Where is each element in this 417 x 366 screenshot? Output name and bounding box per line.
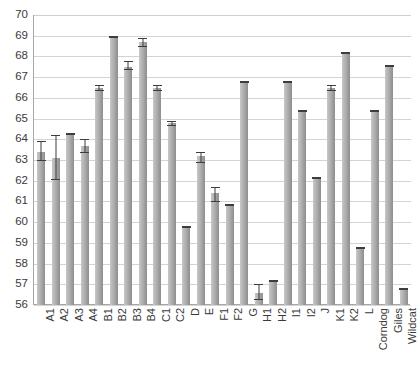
- x-tick-label: J: [320, 308, 331, 314]
- bar[interactable]: [66, 133, 74, 305]
- bar-group[interactable]: [298, 15, 306, 305]
- error-bar-line: [41, 141, 42, 160]
- bar-group[interactable]: [284, 15, 292, 305]
- bar-group[interactable]: [110, 15, 118, 305]
- bar[interactable]: [356, 247, 364, 305]
- bar-group[interactable]: [52, 15, 60, 305]
- bar-group[interactable]: [66, 15, 74, 305]
- error-bar-cap-bottom: [37, 160, 46, 161]
- bar-group[interactable]: [81, 15, 89, 305]
- x-tick-label: L: [364, 308, 375, 314]
- error-bar-cap-top: [109, 36, 118, 38]
- bar-group[interactable]: [37, 15, 45, 305]
- x-tick-label: Corndog: [378, 308, 389, 350]
- x-tick-label: Wildcat: [407, 308, 417, 344]
- bar[interactable]: [298, 110, 306, 305]
- error-bar-cap-bottom: [153, 90, 162, 91]
- bar-group[interactable]: [327, 15, 335, 305]
- bar[interactable]: [52, 158, 60, 305]
- error-bar-line: [215, 187, 216, 202]
- error-bar-cap-top: [283, 81, 292, 83]
- x-tick-label: A1: [45, 308, 56, 321]
- bar-group[interactable]: [371, 15, 379, 305]
- y-tick-label: 64: [0, 133, 28, 144]
- error-bar-cap-bottom: [196, 162, 205, 163]
- error-bar-line: [258, 284, 259, 299]
- bar-group[interactable]: [197, 15, 205, 305]
- bar-group[interactable]: [139, 15, 147, 305]
- bar[interactable]: [37, 152, 45, 305]
- x-tick-label: A4: [88, 308, 99, 321]
- bar-group[interactable]: [269, 15, 277, 305]
- bar-chart: A1A2A3A4B1B2B3B4C1C2DEF1F2GH1H2I1I2JK1K2…: [0, 0, 417, 366]
- bar[interactable]: [81, 146, 89, 306]
- error-bar-cap-top: [298, 110, 307, 112]
- bar[interactable]: [371, 110, 379, 305]
- bar-group[interactable]: [124, 15, 132, 305]
- bar-group[interactable]: [342, 15, 350, 305]
- bar-group[interactable]: [313, 15, 321, 305]
- bar-group[interactable]: [182, 15, 190, 305]
- bar-group[interactable]: [400, 15, 408, 305]
- bar[interactable]: [110, 36, 118, 305]
- bar[interactable]: [168, 123, 176, 305]
- x-axis-tick-labels: A1A2A3A4B1B2B3B4C1C2DEF1F2GH1H2I1I2JK1K2…: [33, 308, 410, 366]
- bar[interactable]: [153, 88, 161, 306]
- bar[interactable]: [400, 288, 408, 305]
- error-bar-cap-top: [225, 204, 234, 206]
- bar[interactable]: [226, 204, 234, 306]
- bar[interactable]: [211, 193, 219, 305]
- bar[interactable]: [182, 226, 190, 305]
- bar[interactable]: [385, 65, 393, 305]
- error-bar-cap-top: [80, 139, 89, 140]
- error-bar-cap-bottom: [327, 90, 336, 91]
- bar-group[interactable]: [240, 15, 248, 305]
- bar-group[interactable]: [356, 15, 364, 305]
- x-tick-label: B2: [117, 308, 128, 321]
- bar[interactable]: [342, 52, 350, 305]
- bar[interactable]: [240, 81, 248, 305]
- x-tick-label: C1: [161, 308, 172, 322]
- y-tick-label: 68: [0, 50, 28, 61]
- bar-group[interactable]: [226, 15, 234, 305]
- bar[interactable]: [327, 88, 335, 306]
- bar[interactable]: [269, 280, 277, 305]
- error-bar-cap-top: [240, 81, 249, 83]
- bar[interactable]: [139, 42, 147, 305]
- error-bar-cap-top: [327, 85, 336, 86]
- x-tick-label: Giles: [393, 308, 404, 333]
- y-tick-label: 58: [0, 258, 28, 269]
- error-bar-cap-top: [124, 61, 133, 62]
- error-bar-line: [142, 38, 143, 46]
- bar[interactable]: [95, 88, 103, 306]
- y-tick-label: 70: [0, 9, 28, 20]
- bar[interactable]: [197, 156, 205, 305]
- x-tick-label: D: [190, 308, 201, 316]
- x-tick-label: E: [204, 308, 215, 315]
- x-tick-label: K2: [349, 308, 360, 321]
- bar[interactable]: [124, 67, 132, 305]
- bar-group[interactable]: [255, 15, 263, 305]
- error-bar-cap-top: [37, 141, 46, 142]
- plot-area: [33, 15, 410, 305]
- error-bar-cap-bottom: [138, 46, 147, 47]
- bar-group[interactable]: [168, 15, 176, 305]
- bar-group[interactable]: [95, 15, 103, 305]
- bar[interactable]: [313, 177, 321, 305]
- error-bar-cap-top: [95, 85, 104, 86]
- bar-group[interactable]: [153, 15, 161, 305]
- x-tick-label: H1: [262, 308, 273, 322]
- y-tick-label: 69: [0, 30, 28, 41]
- y-tick-label: 67: [0, 71, 28, 82]
- error-bar-cap-bottom: [211, 201, 220, 202]
- x-tick-label: F2: [233, 308, 244, 321]
- bar-group[interactable]: [211, 15, 219, 305]
- x-tick-label: C2: [175, 308, 186, 322]
- error-bar-cap-top: [254, 284, 263, 285]
- y-tick-label: 65: [0, 113, 28, 124]
- bar-group[interactable]: [385, 15, 393, 305]
- error-bar-cap-bottom: [95, 90, 104, 91]
- error-bar-cap-top: [399, 288, 408, 290]
- x-tick-label: F1: [219, 308, 230, 321]
- bar[interactable]: [284, 81, 292, 305]
